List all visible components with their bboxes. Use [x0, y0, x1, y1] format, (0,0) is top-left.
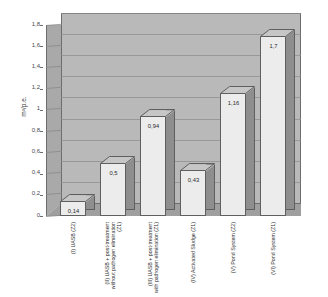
bar-side-face — [166, 110, 175, 210]
x-axis-label: (V) Pond System (Z2) — [230, 222, 236, 294]
bar-value-label: 0,5 — [101, 170, 126, 176]
plot-side-wall — [46, 25, 61, 216]
bar-value-label: 0,94 — [141, 123, 166, 129]
y-axis-tickmark — [40, 174, 43, 175]
x-axis-label: (III) UASB + post-treatment with pathoge… — [147, 222, 159, 294]
x-axis-label-slot: (IV) Activated Sludge (Z1) — [173, 222, 213, 296]
y-axis-tick-label: 0,4 — [18, 169, 40, 175]
y-axis-ticks: 00,20,40,60,811,21,41,61,8 — [14, 0, 40, 297]
x-axis-label: (II) UASB + post-treatment without patho… — [104, 222, 123, 294]
bar-front-face — [260, 36, 286, 216]
y-axis-tick-label: 0,2 — [18, 190, 40, 196]
y-axis-tick-label: 1,4 — [18, 63, 40, 69]
bar-value-label: 1,16 — [221, 100, 246, 106]
x-axis-label-slot: (III) UASB + post-treatment with pathoge… — [133, 222, 173, 296]
bar-front-face — [220, 93, 246, 216]
y-axis-tickmark — [40, 131, 43, 132]
y-axis-tick-label: 0,6 — [18, 148, 40, 154]
y-axis-tickmark — [40, 110, 43, 111]
bar-side-face — [246, 87, 255, 210]
y-axis-tick-label: 0 — [18, 212, 40, 218]
y-axis-tick-label: 1,8 — [18, 21, 40, 27]
x-axis-label-slot: (I) UASB (Z2) — [53, 222, 93, 296]
y-axis-tickmark — [40, 25, 43, 26]
bar-front-face — [140, 116, 166, 216]
x-axis-label-slot: (II) UASB + post-treatment without patho… — [93, 222, 133, 296]
y-axis-tick-label: 1,2 — [18, 84, 40, 90]
y-axis-tickmark — [40, 67, 43, 68]
bar-value-label: 1,7 — [261, 43, 286, 49]
x-axis-label: (IV) Activated Sludge (Z1) — [190, 222, 196, 294]
gridline — [61, 13, 301, 14]
plot-area: 0,140,50,940,431,161,7 — [46, 13, 318, 216]
bar-value-label: 0,14 — [61, 208, 86, 214]
y-axis-tickmark — [40, 46, 43, 47]
y-axis-tick-label: 1,6 — [18, 42, 40, 48]
bar-value-label: 0,43 — [181, 177, 206, 183]
x-axis-label-slot: (V) Pond System (Z2) — [213, 222, 253, 296]
bar-side-face — [206, 164, 215, 210]
y-axis-tick-label: 1 — [18, 105, 40, 111]
y-axis-tickmark — [40, 89, 43, 90]
bar-side-face — [286, 30, 295, 210]
x-axis-label: (VI) Pond System (Z1) — [270, 222, 276, 294]
y-axis-tickmark — [40, 152, 43, 153]
bar-chart: m³/p.e. 00,20,40,60,811,21,41,61,8 0,140… — [0, 0, 328, 297]
bar-side-face — [126, 157, 135, 210]
x-axis-label-slot: (VI) Pond System (Z1) — [253, 222, 293, 296]
y-axis-tickmark — [40, 195, 43, 196]
y-axis-tick-label: 0,8 — [18, 127, 40, 133]
y-axis-tickmark — [40, 216, 43, 217]
x-axis-label: (I) UASB (Z2) — [70, 222, 76, 294]
